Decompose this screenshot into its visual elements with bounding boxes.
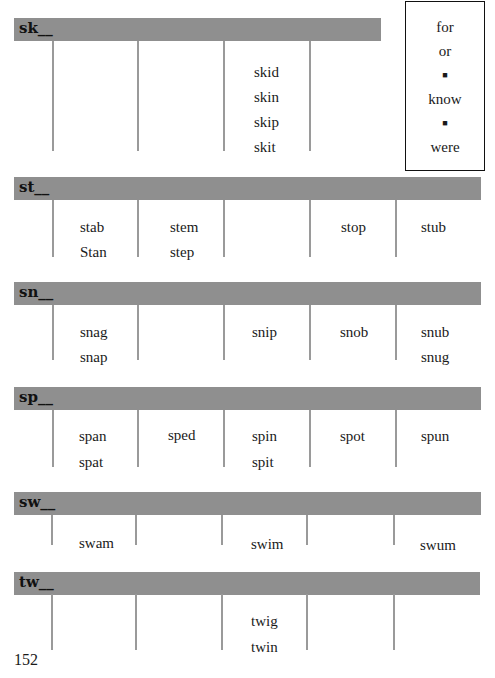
word: skip: [254, 110, 279, 134]
word: swum: [420, 533, 456, 557]
square-bullet-icon: ■: [406, 111, 484, 135]
column-divider: [51, 594, 53, 650]
column-divider: [309, 41, 311, 151]
column-divider: [221, 594, 223, 650]
word: skin: [254, 85, 279, 109]
word: snap: [80, 345, 108, 369]
word: span: [79, 424, 107, 448]
sight-word: or: [406, 39, 484, 63]
word: swam: [79, 531, 114, 555]
column-divider: [51, 515, 53, 545]
word: spit: [252, 450, 274, 474]
word: skit: [254, 135, 276, 159]
column-divider: [223, 410, 225, 467]
sight-word: for: [406, 15, 484, 39]
word: twin: [251, 635, 278, 659]
sight-word: were: [406, 135, 484, 159]
sight-word: know: [406, 87, 484, 111]
page-number: 152: [14, 651, 38, 669]
word: spun: [421, 424, 449, 448]
word: snag: [80, 320, 108, 344]
section-header-sw: sw__: [14, 492, 481, 515]
column-divider: [393, 594, 395, 650]
column-divider: [309, 410, 311, 467]
word: stub: [421, 215, 446, 239]
column-divider: [52, 200, 54, 257]
word: spin: [252, 424, 277, 448]
column-divider: [137, 41, 139, 151]
word: skid: [254, 60, 279, 84]
column-divider: [52, 410, 54, 467]
square-bullet-icon: ■: [406, 63, 484, 87]
column-divider: [306, 594, 308, 650]
column-divider: [395, 200, 397, 257]
word: stop: [341, 215, 366, 239]
section-label: tw__: [19, 573, 54, 591]
sight-words-box: for or ■ know ■ were: [405, 1, 485, 171]
section-header-st: st__: [14, 177, 481, 200]
column-divider: [395, 305, 397, 360]
column-divider: [306, 515, 308, 545]
word: step: [170, 240, 194, 264]
column-divider: [309, 200, 311, 257]
word: sped: [168, 423, 196, 447]
column-divider: [393, 515, 395, 545]
column-divider: [223, 41, 225, 151]
column-divider: [52, 305, 54, 360]
word: snip: [252, 320, 277, 344]
column-divider: [223, 200, 225, 257]
section-header-sn: sn__: [14, 282, 481, 305]
column-divider: [135, 515, 137, 545]
section-label: sk__: [19, 19, 53, 37]
section-header-sp: sp__: [14, 387, 481, 410]
word: spat: [79, 450, 103, 474]
word: spot: [340, 424, 365, 448]
word: twig: [251, 609, 278, 633]
section-label: sw__: [19, 493, 55, 511]
section-header-tw: tw__: [14, 572, 480, 595]
column-divider: [223, 305, 225, 360]
word: snug: [421, 345, 449, 369]
word: stem: [170, 215, 198, 239]
word: swim: [251, 532, 284, 556]
column-divider: [137, 305, 139, 360]
word: snub: [421, 320, 449, 344]
column-divider: [137, 410, 139, 467]
column-divider: [135, 594, 137, 650]
column-divider: [309, 305, 311, 360]
section-label: sn__: [19, 283, 53, 301]
section-label: sp__: [19, 388, 53, 406]
word: Stan: [80, 240, 107, 264]
column-divider: [221, 515, 223, 545]
word: stab: [80, 215, 104, 239]
column-divider: [395, 410, 397, 467]
section-label: st__: [19, 178, 49, 196]
column-divider: [52, 41, 54, 151]
column-divider: [137, 200, 139, 257]
word: snob: [340, 320, 368, 344]
section-header-sk: sk__: [14, 18, 381, 41]
